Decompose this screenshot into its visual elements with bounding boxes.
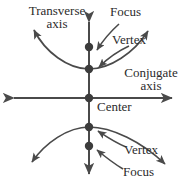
vertex-bottom-point: [85, 123, 93, 131]
center-label: Center: [97, 100, 132, 113]
vertex-bottom-pointer: [98, 131, 126, 147]
focus-bottom-pointer: [97, 150, 123, 169]
focus-bottom-label: Focus: [123, 165, 154, 178]
focus-bottom-point: [85, 142, 93, 150]
center-point: [85, 94, 93, 102]
focus-top-label: Focus: [110, 5, 141, 18]
transverse-axis-label: Transverse axis: [14, 4, 100, 30]
upper-branch-left-arm: [34, 30, 89, 69]
vertex-bottom-label: Vertex: [124, 143, 158, 156]
conjugate-axis-label: Conjugate axis: [117, 66, 185, 92]
lower-branch-left-arm: [32, 127, 89, 162]
vertex-top-label: Vertex: [112, 33, 146, 46]
focus-top-point: [85, 43, 93, 51]
vertex-top-point: [85, 65, 93, 73]
hyperbola-diagram: Transverse axis Focus Vertex Conjugate a…: [0, 0, 186, 185]
